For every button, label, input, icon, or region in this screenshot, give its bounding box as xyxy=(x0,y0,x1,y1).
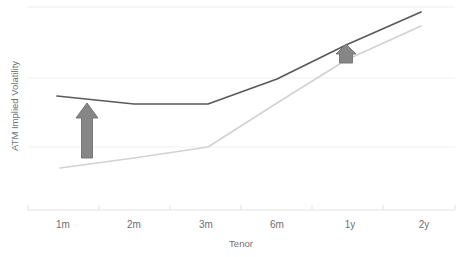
x-tick-label-2y: 2y xyxy=(419,219,430,230)
chart-container: 1m 2m 3m 6m 1y 2y Tenor ATM Implied Vola… xyxy=(0,0,463,257)
x-tick-label-1m: 1m xyxy=(56,219,70,230)
x-tick-label-1y: 1y xyxy=(345,219,356,230)
x-tick-label-6m: 6m xyxy=(270,219,284,230)
y-axis-title: ATM Implied Volatility xyxy=(9,61,20,151)
x-axis-title: Tenor xyxy=(229,238,253,249)
x-tick-label-2m: 2m xyxy=(127,219,141,230)
x-tick-label-3m: 3m xyxy=(199,219,213,230)
volatility-term-structure-chart: 1m 2m 3m 6m 1y 2y Tenor ATM Implied Vola… xyxy=(0,0,463,257)
